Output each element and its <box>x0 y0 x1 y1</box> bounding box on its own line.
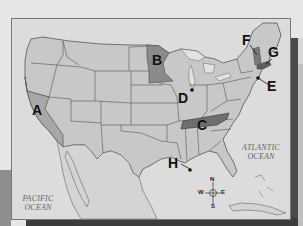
atlantic-ocean-label: ATLANTIC OCEAN <box>240 143 282 161</box>
label-A: A <box>32 103 42 117</box>
label-B: B <box>152 53 162 67</box>
compass-west: W <box>198 189 204 195</box>
compass-east: E <box>221 189 225 195</box>
atlantic-line1: ATLANTIC <box>240 143 282 152</box>
pacific-ocean-label: PACIFIC OCEAN <box>18 194 58 212</box>
label-D: D <box>178 91 188 105</box>
compass-south: S <box>211 203 215 209</box>
map-shadow-right <box>290 38 298 226</box>
point-D-marker <box>190 88 194 92</box>
compass-north: N <box>210 176 214 182</box>
label-F: F <box>242 33 251 47</box>
pacific-line1: PACIFIC <box>18 194 58 203</box>
pacific-line2: OCEAN <box>18 203 58 212</box>
background-photo-edge <box>0 170 11 226</box>
page-edge-strip <box>298 38 303 64</box>
label-H: H <box>168 156 178 170</box>
atlantic-line2: OCEAN <box>240 152 282 161</box>
label-G: G <box>268 45 279 59</box>
label-C: C <box>197 118 207 132</box>
point-E-marker <box>256 76 260 80</box>
us-map-graphic <box>12 19 290 219</box>
label-E: E <box>267 79 276 93</box>
us-map <box>11 18 291 220</box>
point-H-marker <box>188 168 192 172</box>
page-edge-strip-lower <box>298 64 303 226</box>
